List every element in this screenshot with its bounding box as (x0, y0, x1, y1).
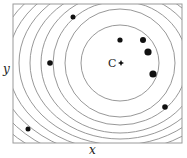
center-star-icon (118, 60, 124, 66)
x-axis-label: x (89, 144, 96, 156)
contour-ellipse (8, 0, 187, 151)
contour-lines (0, 0, 187, 158)
data-point (140, 37, 146, 43)
data-point (117, 37, 122, 42)
data-point (149, 70, 156, 77)
contour-ellipse (0, 0, 187, 158)
data-point (162, 104, 168, 110)
center-label: C (108, 57, 116, 70)
data-point (26, 127, 31, 132)
contour-ellipse (0, 0, 187, 158)
data-point (47, 60, 53, 66)
data-point (71, 15, 76, 20)
y-axis-label: y (3, 63, 10, 75)
contour-ellipse (0, 0, 187, 157)
data-point (144, 48, 151, 55)
contour-diagram: C (0, 0, 187, 158)
plot-frame (13, 4, 182, 143)
